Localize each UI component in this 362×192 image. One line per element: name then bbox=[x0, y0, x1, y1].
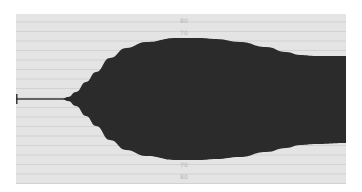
waveform-track[interactable]: 80 70 70 80 bbox=[16, 14, 346, 184]
level-label-bottom-outer: 80 bbox=[180, 174, 188, 180]
level-label-top-inner: 70 bbox=[180, 30, 188, 36]
waveform-display[interactable] bbox=[16, 14, 346, 184]
waveform-shape bbox=[16, 38, 346, 160]
level-label-top-outer: 80 bbox=[180, 18, 188, 24]
level-label-bottom-inner: 70 bbox=[180, 162, 188, 168]
